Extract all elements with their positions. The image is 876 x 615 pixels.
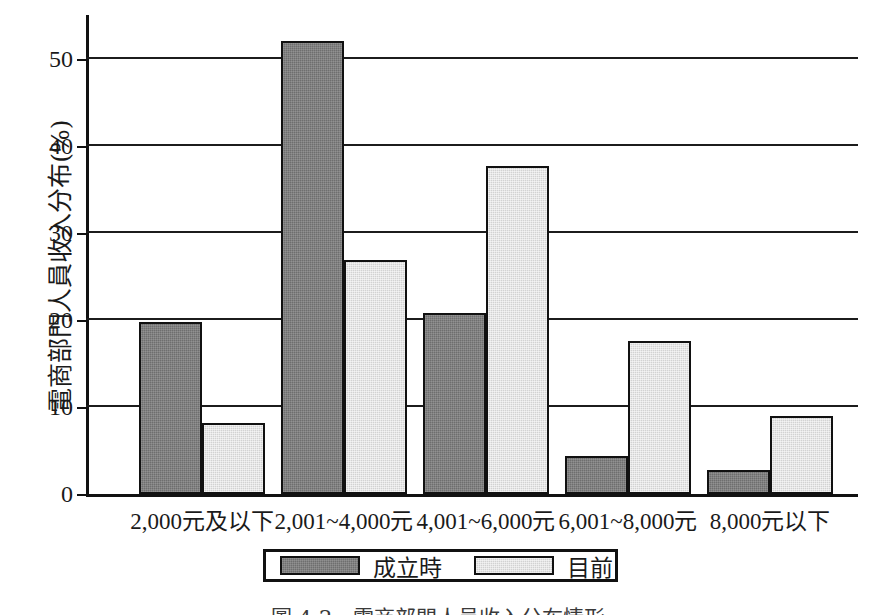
plot-area: 01020304050 [86, 15, 858, 497]
y-axis-line [86, 15, 89, 497]
y-tick-mark-30 [77, 233, 86, 235]
x-axis-label-4: 8,000元以下 [710, 502, 831, 536]
bar-0-4 [707, 470, 770, 494]
legend-label-series-0: 成立時 [373, 549, 442, 583]
gridline-30 [86, 231, 858, 233]
x-axis-label-1: 2,001~4,000元 [275, 502, 414, 536]
gridline-50 [86, 57, 858, 59]
figure-caption: 圖 4-2 電商部門人員收入分布情形 [0, 601, 876, 615]
bar-chart-figure: 電商部門人員收入分布(%) 01020304050 2,000元及以下2,001… [0, 0, 876, 615]
legend-entry-series-0[interactable]: 成立時 [280, 552, 442, 579]
bar-0-0 [139, 322, 202, 494]
y-tick-mark-20 [77, 320, 86, 322]
y-tick-mark-10 [77, 407, 86, 409]
x-axis-label-3: 6,001~8,000元 [559, 502, 698, 536]
y-tick-label-10: 10 [49, 395, 73, 419]
bar-1-4 [770, 416, 833, 494]
bar-1-3 [628, 341, 691, 494]
y-tick-label-30: 30 [49, 221, 73, 245]
bar-1-0 [202, 423, 265, 494]
bar-0-3 [565, 456, 628, 494]
y-tick-label-50: 50 [49, 47, 73, 71]
x-axis-label-2: 4,001~6,000元 [417, 502, 556, 536]
y-tick-label-20: 20 [49, 308, 73, 332]
bar-0-1 [281, 41, 344, 494]
y-tick-label-0: 0 [61, 482, 73, 506]
x-axis-label-0: 2,000元及以下 [130, 502, 274, 536]
bar-0-2 [423, 313, 486, 494]
bar-1-2 [486, 166, 549, 494]
gridline-40 [86, 144, 858, 146]
bar-1-1 [344, 260, 407, 494]
x-axis-line [86, 494, 858, 497]
y-axis-title: 電商部門人員收入分布(%) [40, 36, 76, 496]
y-tick-mark-0 [77, 494, 86, 496]
legend-swatch-icon-series-0 [280, 556, 360, 575]
legend-swatch-icon-series-1 [474, 556, 554, 575]
y-tick-label-40: 40 [49, 134, 73, 158]
chart-legend: 成立時 目前 [263, 549, 618, 582]
legend-label-series-1: 目前 [567, 549, 613, 583]
y-tick-mark-50 [77, 59, 86, 61]
y-tick-mark-40 [77, 146, 86, 148]
legend-entry-series-1[interactable]: 目前 [474, 552, 613, 579]
